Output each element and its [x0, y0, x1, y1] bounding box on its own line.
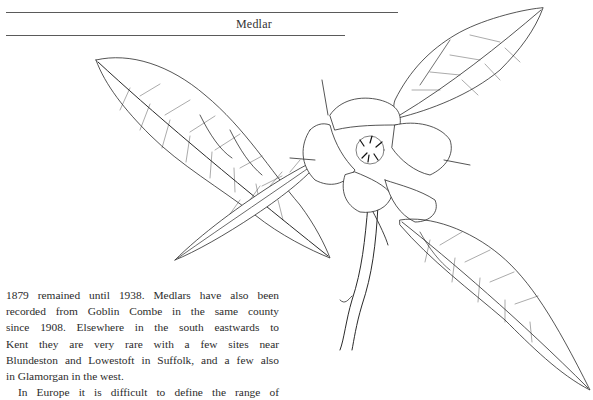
text-line: in Glamorgan in the west.	[6, 368, 279, 384]
text-line: recorded from Goblin Combe in the same c…	[6, 303, 279, 319]
body-text: 1879 remained until 1938. Medlars have a…	[6, 287, 279, 400]
text-line: Blundeston and Lowestoft in Suffolk, and…	[6, 352, 279, 368]
text-line: In Europe it is difficult to define the …	[6, 384, 279, 400]
upper-right-leaf	[394, 8, 543, 118]
paragraph-1: 1879 remained until 1938. Medlars have a…	[6, 287, 279, 384]
stem	[340, 205, 388, 350]
text-line: 1879 remained until 1938. Medlars have a…	[6, 287, 279, 303]
paragraph-2: In Europe it is difficult to define the …	[6, 384, 279, 400]
text-line: since 1908. Elsewhere in the south eastw…	[6, 319, 279, 335]
text-line: Kent they are very rare with a few sites…	[6, 336, 279, 352]
lower-right-leaf	[400, 219, 590, 390]
flower	[290, 80, 470, 222]
